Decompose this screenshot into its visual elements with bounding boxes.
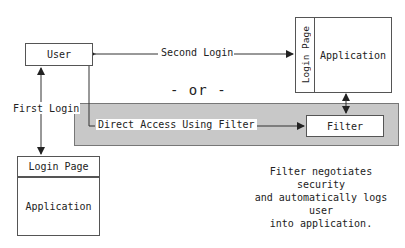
- user-label: User: [47, 49, 71, 60]
- note-line-2: and automatically logs user: [246, 191, 396, 217]
- right-login-page-label: Login Page: [300, 26, 311, 83]
- user-box: User: [25, 43, 93, 66]
- bottom-application-label: Application: [25, 201, 91, 212]
- direct-access-label: Direct Access Using Filter: [96, 119, 257, 130]
- right-login-page-strip: Login Page: [296, 18, 315, 92]
- or-separator: - or -: [170, 82, 227, 98]
- note-line-1: Filter negotiates security: [246, 165, 396, 191]
- right-application-box: Login Page Application: [295, 17, 392, 93]
- filter-box: Filter: [306, 115, 384, 137]
- filter-label: Filter: [327, 121, 363, 132]
- note-line-3: into application.: [246, 217, 396, 230]
- filter-note: Filter negotiates security and automatic…: [246, 165, 396, 230]
- bottom-application-box: Login Page Application: [17, 156, 100, 236]
- bottom-login-page-header: Login Page: [18, 157, 99, 178]
- bottom-application-area: Application: [18, 178, 99, 235]
- first-login-label: First Login: [12, 103, 80, 114]
- right-application-area: Application: [315, 18, 391, 92]
- right-application-label: Application: [320, 50, 386, 61]
- bottom-login-page-label: Login Page: [28, 161, 88, 172]
- second-login-label: Second Login: [160, 47, 234, 58]
